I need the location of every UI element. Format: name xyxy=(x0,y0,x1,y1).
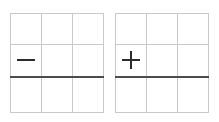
grid-vertical-line-1 xyxy=(146,14,147,112)
plus-icon xyxy=(116,45,146,76)
baseline-rule xyxy=(10,76,104,78)
grid-vertical-line-2 xyxy=(177,14,178,112)
grid-vertical-line-1 xyxy=(41,14,42,112)
minus-icon xyxy=(11,45,41,76)
minus-stroke-horizontal xyxy=(17,59,35,61)
grid-panel-plus xyxy=(115,13,209,113)
grid-panel-minus xyxy=(10,13,104,113)
baseline-rule xyxy=(115,76,209,78)
figure-canvas xyxy=(0,0,219,122)
grid-vertical-line-2 xyxy=(72,14,73,112)
plus-stroke-vertical xyxy=(130,51,132,69)
